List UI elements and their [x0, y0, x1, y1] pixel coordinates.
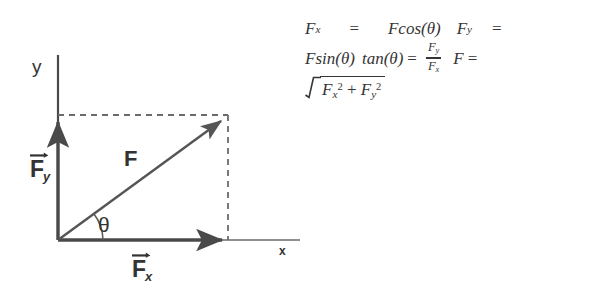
eq3-fy-base: F [361, 80, 371, 99]
force-x-subscript: x [145, 269, 152, 284]
force-y-base-letter: F [30, 158, 44, 181]
eq2-den-base: F [428, 59, 436, 73]
eq2-equals: = [407, 49, 417, 69]
eq2-fraction-numerator: Fy [426, 41, 441, 56]
force-y-subscript: y [43, 169, 50, 184]
eq3-plus-operator: + [347, 80, 357, 99]
eq3-fx-exponent: 2 [337, 81, 342, 92]
resultant-force-vector [58, 121, 221, 240]
vector-diagram: y x F θ Fy [0, 0, 305, 303]
eq3-fy-exponent: 2 [376, 81, 381, 92]
vector-diagram-canvas [0, 0, 305, 303]
eq1-second-equals: = [492, 19, 502, 39]
eq2-resultant-f: F [453, 49, 463, 69]
eq1-fx-base: F [305, 19, 315, 39]
eq1-fx-subscript: x [315, 23, 320, 35]
x-axis-label: x [279, 245, 286, 257]
eq2-sin-function: sin(θ) [315, 49, 355, 69]
y-axis-label: y [32, 57, 42, 76]
eq2-num-base: F [428, 40, 436, 54]
vector-notation-fx: Fx [132, 258, 152, 284]
force-y-component-label: Fy [30, 158, 50, 184]
eq1-equals: = [349, 19, 359, 39]
eq1-cos-function: cos(θ) [398, 19, 440, 39]
force-x-component-label: Fx [132, 258, 152, 284]
square-root-radical-icon [305, 76, 321, 106]
eq1-fy-base: F [457, 19, 467, 39]
square-root-expression: Fx2 + Fy2 [305, 76, 385, 106]
vector-notation-fy: Fy [30, 158, 50, 184]
eq2-magnitude-f: F [305, 49, 315, 69]
force-x-base-letter: F [132, 258, 146, 281]
eq2-den-subscript: x [436, 65, 440, 74]
equation-block: Fx = Fcos(θ) Fy = Fsin(θ) tan(θ) = Fy Fx… [305, 14, 605, 108]
eq2-num-subscript: y [436, 47, 440, 56]
resultant-force-label: F [124, 148, 138, 170]
eq2-second-equals: = [468, 49, 478, 69]
equation-line-1: Fx = Fcos(θ) Fy = [305, 14, 605, 44]
eq1-fy-subscript: y [467, 23, 472, 35]
eq2-tangent-ratio-fraction: Fy Fx [426, 41, 441, 75]
equation-line-3: Fx2 + Fy2 [305, 74, 605, 108]
figure-page: y x F θ Fy [0, 0, 611, 303]
eq2-fraction-denominator: Fx [426, 60, 441, 75]
eq1-magnitude-f: F [388, 19, 398, 39]
radicand-expression: Fx2 + Fy2 [320, 76, 385, 106]
angle-theta-label: θ [98, 214, 110, 235]
eq2-tan-function: tan(θ) [362, 49, 403, 69]
equation-line-2: Fsin(θ) tan(θ) = Fy Fx F = [305, 44, 605, 74]
eq3-fx-base: F [322, 80, 332, 99]
